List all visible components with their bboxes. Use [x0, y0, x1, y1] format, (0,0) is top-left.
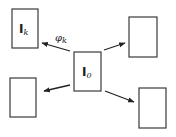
edge-i0-to-bottom-right-arrow	[105, 91, 134, 102]
node-top-right-box	[129, 17, 157, 57]
node-bottom-right	[139, 88, 166, 128]
edge-i0-to-top-right-arrow	[104, 43, 125, 50]
node-bottom-right-box	[139, 88, 166, 128]
node-top-right	[129, 17, 157, 57]
diagram-canvas: Ik I0 φk	[0, 0, 176, 137]
node-bottom-left	[10, 78, 36, 117]
node-ik: Ik	[12, 9, 38, 48]
node-bottom-left-box	[10, 78, 36, 117]
edge-label-phi-k: φk	[55, 32, 67, 45]
node-i0: I0	[74, 52, 101, 91]
edge-i0-to-bottom-left-arrow	[44, 85, 70, 91]
